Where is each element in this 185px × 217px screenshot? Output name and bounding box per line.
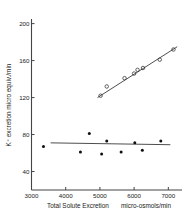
trend-line-lower-series	[51, 143, 171, 145]
data-point-filled	[159, 140, 162, 143]
data-point-filled	[141, 149, 144, 152]
data-point-filled	[42, 145, 45, 148]
data-point-open	[123, 76, 127, 80]
data-series	[42, 47, 177, 156]
x-axis-tick-label: 5000	[93, 192, 107, 199]
data-point-filled	[88, 132, 91, 135]
y-axis-tick-label: 160	[19, 57, 30, 64]
data-point-filled	[79, 151, 82, 154]
x-axis-tick-label: 6000	[127, 192, 141, 199]
data-point-open	[158, 58, 162, 62]
trend-line-upper-series	[98, 47, 178, 98]
series-upper-series	[98, 47, 178, 98]
y-axis-tick-label: 80	[23, 131, 30, 138]
y-axis-tick-label: 200	[19, 20, 30, 27]
x-axis-tick-label: 3000	[25, 192, 39, 199]
x-axis-units-label: micro-osmols/min	[121, 202, 172, 209]
data-point-open	[136, 68, 140, 72]
data-point-open	[105, 85, 109, 89]
y-axis-title: K⁺ excretion micro equiv./min	[5, 63, 13, 146]
x-axis-tick-label: 7000	[161, 192, 175, 199]
axis-tick-labels: 408012016020030004000500060007000	[19, 20, 176, 199]
axis-ticks	[32, 24, 169, 190]
series-lower-series	[42, 132, 170, 155]
chart-figure: 408012016020030004000500060007000 K⁺ exc…	[0, 0, 185, 217]
scatter-plot: 408012016020030004000500060007000 K⁺ exc…	[0, 0, 185, 217]
x-axis-tick-label: 4000	[59, 192, 73, 199]
data-point-filled	[120, 151, 123, 154]
axes	[32, 19, 183, 190]
y-axis-tick-label: 120	[19, 94, 30, 101]
x-axis-title: Total Solute Excretion	[47, 202, 109, 209]
data-point-filled	[133, 141, 136, 144]
data-point-filled	[105, 140, 108, 143]
y-axis-tick-label: 40	[23, 168, 30, 175]
data-point-filled	[100, 152, 103, 155]
axis-titles: K⁺ excretion micro equiv./minTotal Solut…	[5, 63, 172, 208]
